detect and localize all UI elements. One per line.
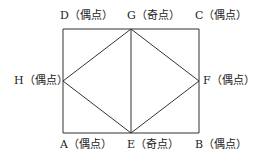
edge-f-e xyxy=(131,81,199,133)
label-d: D（偶点） xyxy=(60,10,113,22)
label-c: C（偶点） xyxy=(195,10,247,22)
edge-h-e xyxy=(63,81,131,133)
edge-g-h xyxy=(63,29,131,81)
label-h: H（偶点） xyxy=(14,75,68,87)
edge-g-f xyxy=(131,29,199,81)
label-e: E（奇点） xyxy=(127,139,179,151)
edges xyxy=(63,29,199,133)
label-a: A（偶点） xyxy=(60,139,112,151)
label-b: B（偶点） xyxy=(195,139,247,151)
label-f: F（偶点） xyxy=(203,75,254,87)
label-g: G（奇点） xyxy=(127,10,180,22)
